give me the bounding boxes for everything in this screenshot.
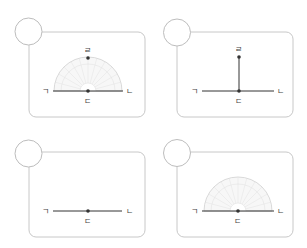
- protractor-icon: [54, 57, 122, 91]
- answer-circle[interactable]: [164, 140, 191, 167]
- label-center: ㄷ: [84, 217, 91, 226]
- label-left: ㄱ: [191, 207, 198, 216]
- point-top: [86, 56, 90, 60]
- point-center: [236, 209, 240, 213]
- point-center: [86, 89, 90, 93]
- panel-top-left: ㄱ ㄴ ㄷ ㄹ: [15, 18, 145, 117]
- answer-circle[interactable]: [164, 19, 191, 46]
- panel-bottom-left: ㄱ ㄴ ㄷ: [15, 140, 145, 237]
- diagram-canvas: ㄱ ㄴ ㄷ ㄹ ㄱ ㄴ ㄷ ㄹ ㄱ ㄴ ㄷ ㄱ ㄴ ㄷ: [0, 0, 307, 248]
- label-right: ㄴ: [277, 207, 284, 216]
- label-left: ㄱ: [191, 87, 198, 96]
- label-left: ㄱ: [42, 207, 49, 216]
- point-center: [86, 209, 90, 213]
- label-left: ㄱ: [42, 87, 49, 96]
- label-right: ㄴ: [277, 87, 284, 96]
- panel-bottom-right: ㄱ ㄴ ㄷ: [164, 140, 294, 238]
- protractor-icon: [204, 177, 272, 211]
- answer-circle[interactable]: [15, 18, 42, 45]
- point-center: [237, 89, 241, 93]
- label-top: ㄹ: [235, 45, 242, 54]
- label-right: ㄴ: [126, 207, 133, 216]
- label-center: ㄷ: [234, 217, 241, 226]
- panel-top-right: ㄱ ㄴ ㄷ ㄹ: [164, 19, 294, 117]
- label-center: ㄷ: [235, 97, 242, 106]
- label-right: ㄴ: [126, 87, 133, 96]
- label-top: ㄹ: [84, 46, 91, 55]
- answer-circle[interactable]: [15, 140, 42, 167]
- label-center: ㄷ: [84, 97, 91, 106]
- point-top: [237, 55, 241, 59]
